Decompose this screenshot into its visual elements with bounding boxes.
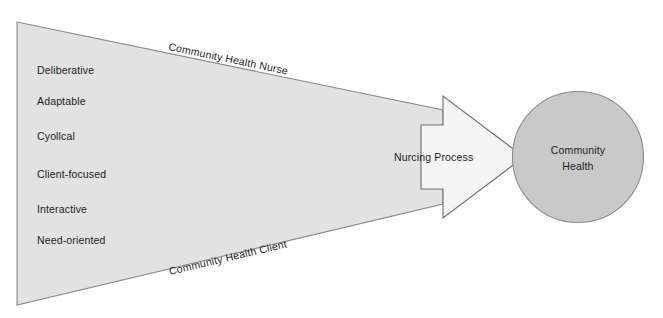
outcome-circle-label-line2: Health — [562, 160, 593, 172]
wedge-attribute-client-focused: Client-focused — [37, 168, 106, 180]
wedge-attribute-cyclical: Cyollcal — [37, 130, 75, 142]
wedge-attribute-adaptable: Adaptable — [37, 95, 86, 107]
process-arrow-label: Nurcing Process — [394, 151, 473, 163]
outcome-circle-shape — [513, 92, 644, 223]
diagram-canvas: Deliberative Adaptable Cyollcal Client-f… — [0, 0, 663, 318]
wedge-attribute-need-oriented: Need-oriented — [37, 234, 106, 246]
diagram-svg: Deliberative Adaptable Cyollcal Client-f… — [0, 0, 663, 318]
wedge-attribute-deliberative: Deliberative — [37, 64, 94, 76]
wedge-attribute-interactive: Interactive — [37, 203, 87, 215]
outcome-circle-label-line1: Community — [551, 144, 606, 156]
